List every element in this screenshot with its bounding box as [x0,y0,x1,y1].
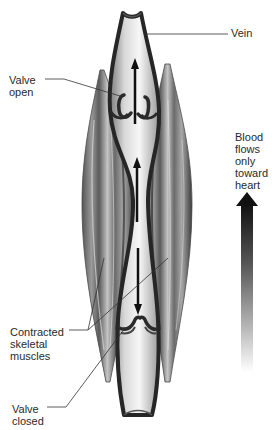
contracted-muscles-label: Contracted skeletal muscles [10,326,64,362]
blood-flow-label: Blood flows only toward heart [235,131,268,191]
toward-heart-arrow [236,192,258,372]
venous-valve-diagram [0,0,272,430]
valve-open-label: Valve open [9,74,36,98]
valve-closed-label: Valve closed [12,403,44,427]
vein-label: Vein [231,27,252,39]
